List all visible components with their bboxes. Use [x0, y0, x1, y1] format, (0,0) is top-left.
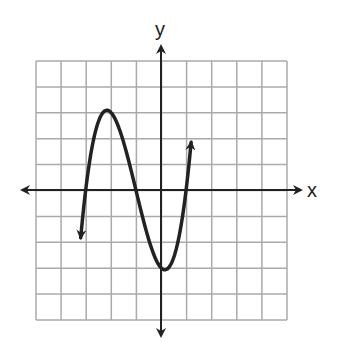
axes — [22, 46, 301, 336]
y-axis-label: y — [155, 18, 165, 40]
x-axis-label: x — [307, 179, 317, 201]
cubic-function-graph: x y — [0, 0, 339, 347]
